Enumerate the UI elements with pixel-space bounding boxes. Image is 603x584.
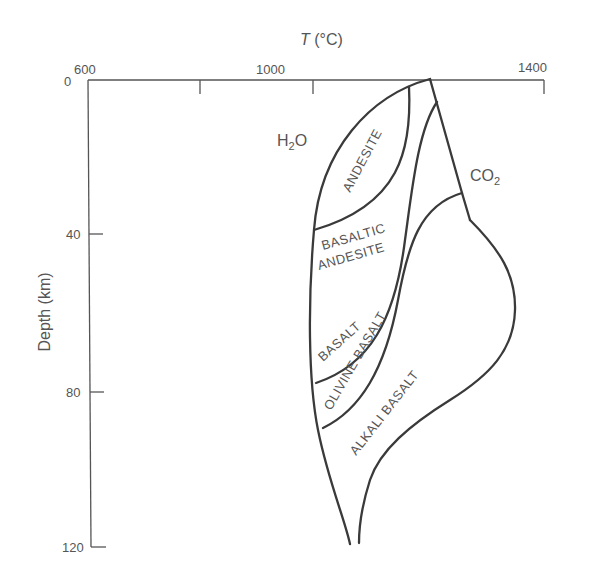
x-tick-label-600: 600	[74, 62, 96, 77]
axes-frame	[88, 80, 544, 547]
co2-label: CO2	[470, 167, 500, 187]
y-tick-label-80: 80	[66, 385, 80, 400]
x-tick-label-1400: 1400	[518, 60, 547, 75]
x-axis-title: T (°C)	[300, 31, 343, 48]
y-tick-label-120: 120	[62, 540, 84, 555]
y-tick-label-0: 0	[64, 74, 71, 89]
y-axis-title: Depth (km)	[36, 272, 53, 351]
y-axis-line	[88, 80, 91, 547]
x-tick-label-1000: 1000	[256, 62, 285, 77]
phase-diagram: T (°C) 600 1000 1400 0 40 80 120 Depth (…	[0, 0, 603, 584]
y-tick-label-40: 40	[66, 227, 80, 242]
h2o-label: H2O	[277, 132, 307, 152]
phase-boundaries	[310, 79, 515, 544]
region-label-alkali-basalt: ALKALI BASALT	[347, 367, 422, 457]
alkali-basalt-outer-line	[359, 220, 515, 543]
